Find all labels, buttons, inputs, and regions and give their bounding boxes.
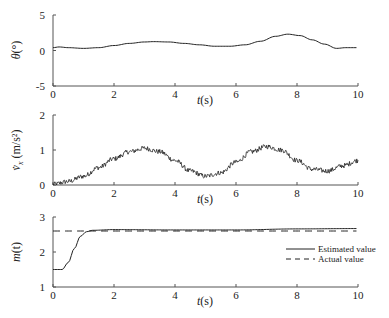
legend: Estimated valueActual value [286,244,376,264]
figure-canvas: 0246810-505t(s)θ(°)0246810012t(s)v̇x (m/… [0,0,389,318]
y-tick-label: 2 [40,246,46,258]
x-tick-label: 8 [294,88,300,100]
y-tick-label: 1 [40,281,46,293]
y-axis-label: v̇x (m/s²) [9,130,25,171]
y-tick-label: 2 [40,109,46,121]
x-tick-label: 2 [111,88,117,100]
legend-actual: Actual value [318,254,364,264]
x-tick-label: 4 [172,289,178,301]
x-tick-label: 0 [50,187,56,199]
x-axis-label: t(s) [197,192,213,206]
x-tick-label: 6 [233,88,239,100]
y-axis-label: θ(°) [9,41,23,60]
x-tick-label: 0 [50,289,56,301]
y-tick-label: 0 [40,179,46,191]
data-line [53,145,358,185]
x-tick-label: 6 [233,289,239,301]
x-tick-label: 10 [353,187,365,199]
chart-panel-3: 0246810123t(s)m(t)Estimated valueActual … [9,211,376,308]
x-tick-label: 4 [172,187,178,199]
y-tick-label: 3 [40,211,46,223]
x-axis-label: t(s) [197,294,213,308]
chart-panel-1: 0246810-505t(s)θ(°) [9,9,364,107]
y-tick-label: 1 [40,144,46,156]
x-tick-label: 2 [111,187,117,199]
legend-estimated: Estimated value [318,244,376,254]
y-tick-label: 0 [40,45,46,57]
x-axis-label: t(s) [197,93,213,107]
y-tick-label: 5 [40,9,46,21]
x-tick-label: 10 [353,88,365,100]
x-tick-label: 6 [233,187,239,199]
y-axis-label: m(t) [9,242,23,262]
x-tick-label: 4 [172,88,178,100]
data-line [53,34,356,48]
chart-panel-2: 0246810012t(s)v̇x (m/s²) [9,109,364,206]
x-tick-label: 8 [294,289,300,301]
x-tick-label: 10 [353,289,365,301]
x-tick-label: 0 [50,88,56,100]
y-tick-label: -5 [36,80,46,92]
x-tick-label: 8 [294,187,300,199]
x-tick-label: 2 [111,289,117,301]
